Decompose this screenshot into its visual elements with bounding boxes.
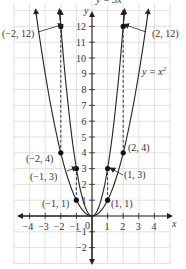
label-m2-4: (−2, 4) bbox=[26, 153, 53, 165]
y-tick-label: 7 bbox=[82, 100, 87, 111]
y-tick-label: 11 bbox=[76, 37, 86, 48]
parabola-graph: −4−3−2−11234−2−1123456789101112 x y 0 (−… bbox=[0, 0, 186, 269]
x-axis-label: x bbox=[171, 218, 177, 229]
x-tick-label: −2 bbox=[54, 221, 65, 232]
y-tick-label: 6 bbox=[82, 116, 87, 127]
label-2-12: (2, 12) bbox=[152, 28, 179, 40]
y-tick-label: −2 bbox=[76, 242, 87, 253]
label-m1-3: (−1, 3) bbox=[30, 171, 57, 183]
origin-label: 0 bbox=[85, 220, 90, 231]
data-point bbox=[105, 198, 110, 203]
data-point bbox=[121, 150, 126, 155]
data-point bbox=[58, 24, 63, 29]
label-1-1: (1, 1) bbox=[111, 198, 133, 210]
equation-x-squared: y = x2 bbox=[141, 65, 167, 77]
equation-3x-squared: y = 3x2 bbox=[95, 0, 126, 5]
x-tick-label: 2 bbox=[120, 221, 125, 232]
y-tick-label: 5 bbox=[82, 132, 87, 143]
y-tick-label: 8 bbox=[82, 84, 87, 95]
x-tick-label: 3 bbox=[136, 221, 141, 232]
data-point bbox=[105, 166, 110, 171]
label-2-4: (2, 4) bbox=[128, 142, 150, 154]
y-tick-label: 12 bbox=[76, 21, 86, 32]
label-m2-12: (−2, 12) bbox=[2, 28, 34, 40]
x-tick-label: 4 bbox=[151, 221, 156, 232]
label-1-3: (1, 3) bbox=[124, 169, 146, 181]
y-axis-label: y bbox=[83, 5, 89, 16]
data-point bbox=[121, 24, 126, 29]
y-tick-label: 3 bbox=[82, 163, 87, 174]
y-tick-label: 4 bbox=[82, 147, 87, 158]
x-tick-label: −3 bbox=[38, 221, 49, 232]
x-tick-label: 1 bbox=[105, 221, 110, 232]
y-tick-label: 9 bbox=[82, 68, 87, 79]
label-m1-1: (−1, 1) bbox=[42, 198, 69, 210]
y-tick-label: 10 bbox=[76, 53, 86, 64]
data-point bbox=[58, 150, 63, 155]
data-point bbox=[74, 198, 79, 203]
y-tick-label: 2 bbox=[82, 179, 87, 190]
data-point bbox=[74, 166, 79, 171]
x-tick-label: −4 bbox=[23, 221, 34, 232]
